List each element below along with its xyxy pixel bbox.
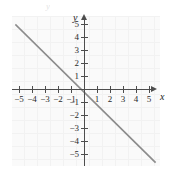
y-tick [81,50,88,51]
y-tick [81,115,88,116]
y-tick [81,76,88,77]
y-tick-label: 3 [63,46,79,55]
x-tick [71,86,72,93]
y-tick [81,24,88,25]
x-axis-label: x [160,92,164,102]
y-axis-arrow-icon [81,14,87,20]
x-tick [45,86,46,93]
y-tick-label: 4 [63,33,79,42]
x-tick [123,86,124,93]
x-tick [97,86,98,93]
x-tick [110,86,111,93]
y-tick [81,63,88,64]
y-tick-label: −4 [63,137,79,146]
y-tick [81,37,88,38]
x-tick [19,86,20,93]
x-tick [149,86,150,93]
y-axis [84,20,85,166]
scan-artifact: y [46,1,62,12]
y-tick [81,141,88,142]
y-tick [81,102,88,103]
x-axis-arrow-icon [151,86,157,92]
y-tick [81,154,88,155]
y-tick-label: 2 [63,59,79,68]
y-tick-label: −2 [63,111,79,120]
x-axis [12,89,152,90]
y-tick-label: 1 [63,72,79,81]
x-tick-label: 5 [141,95,157,104]
y-tick [81,128,88,129]
y-tick-label: −3 [63,124,79,133]
x-tick [32,86,33,93]
x-tick [58,86,59,93]
line-series-y-equals-negative-x [12,16,160,166]
y-tick-label: −1 [63,98,79,107]
y-tick-label: −5 [63,150,79,159]
x-tick [136,86,137,93]
y-axis-label: y [73,13,77,23]
coordinate-plane-figure: y −5 −4 −3 −2 −1 1 2 3 4 5 5 4 3 2 1 −1 … [0,0,172,171]
